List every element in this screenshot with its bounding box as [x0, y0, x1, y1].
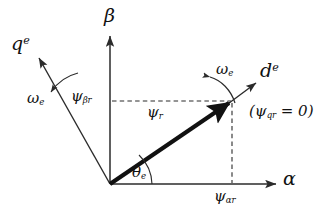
q-axis-line — [39, 58, 110, 184]
psi-r-sub: r — [159, 111, 163, 121]
q-axis-label: qe — [11, 34, 30, 53]
omega-e-label-left: ωe — [27, 91, 44, 107]
psi-qr-zero-annotation: (ψqr = 0) — [249, 104, 314, 120]
psi-beta-r-sub: βr — [83, 95, 92, 105]
vector-diagram: β α qe de ωe ωe ψβr ψαr ψr θe (ψqr = 0) — [0, 0, 328, 219]
d-axis-label-superscript: e — [272, 61, 279, 74]
annotation-psi-sub: qr — [267, 110, 276, 120]
annotation-equals-zero: = 0) — [276, 102, 314, 120]
psi-alpha-r-base: ψ — [214, 187, 226, 205]
omega-left-base: ω — [27, 89, 39, 107]
psi-alpha-r-label: ψαr — [214, 189, 235, 205]
theta-e-sub: e — [141, 171, 146, 181]
q-axis-label-base: q — [11, 32, 23, 54]
d-axis-label: de — [260, 61, 279, 80]
theta-e-angle-label: θe — [132, 165, 146, 181]
psi-beta-r-label: ψβr — [71, 89, 92, 105]
theta-e-base: θ — [132, 163, 141, 181]
omega-right-sub: e — [228, 68, 233, 78]
psi-r-base: ψ — [147, 103, 159, 121]
annotation-psi-base: ψ — [255, 102, 267, 120]
rotor-flux-vector — [110, 103, 229, 184]
omega-e-label-right: ωe — [216, 62, 233, 78]
omega-right-base: ω — [216, 60, 228, 78]
omega-left-sub: e — [39, 97, 44, 107]
psi-beta-r-base: ψ — [71, 87, 83, 105]
psi-alpha-r-sub: αr — [226, 195, 236, 205]
d-axis-label-base: d — [260, 59, 272, 81]
alpha-axis-label: α — [283, 169, 296, 188]
beta-axis-label: β — [104, 6, 115, 25]
psi-r-vector-label: ψr — [147, 105, 163, 121]
omega-rotation-arc-right — [210, 77, 235, 103]
q-axis-label-superscript: e — [23, 34, 30, 47]
